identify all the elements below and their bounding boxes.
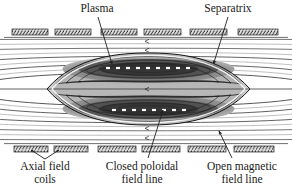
coil-segment	[142, 146, 180, 152]
frc-diagram-figure: Plasma Separatrix Axial field coils Clos…	[0, 0, 292, 194]
label-axial-field-coils: Axial field coils	[2, 160, 88, 185]
coil-segment	[144, 29, 181, 35]
label-open-magnetic-field-line: Open magnetic field line	[194, 160, 290, 185]
coil-segment	[190, 29, 227, 35]
label-plasma: Plasma	[66, 2, 128, 15]
bottom-coil-row	[4, 144, 288, 152]
coil-segment	[54, 146, 88, 152]
coil-segment	[14, 146, 48, 152]
coil-segment	[12, 29, 48, 35]
coil-segment	[98, 146, 136, 152]
coil-segment	[238, 29, 278, 35]
coil-segment	[55, 29, 91, 35]
coil-segment	[188, 146, 226, 152]
coil-segment	[101, 29, 137, 35]
coil-segment	[234, 146, 274, 152]
label-separatrix: Separatrix	[186, 2, 270, 15]
top-coil-row	[4, 29, 288, 37]
label-closed-poloidal-field-line: Closed poloidal field line	[94, 160, 190, 185]
